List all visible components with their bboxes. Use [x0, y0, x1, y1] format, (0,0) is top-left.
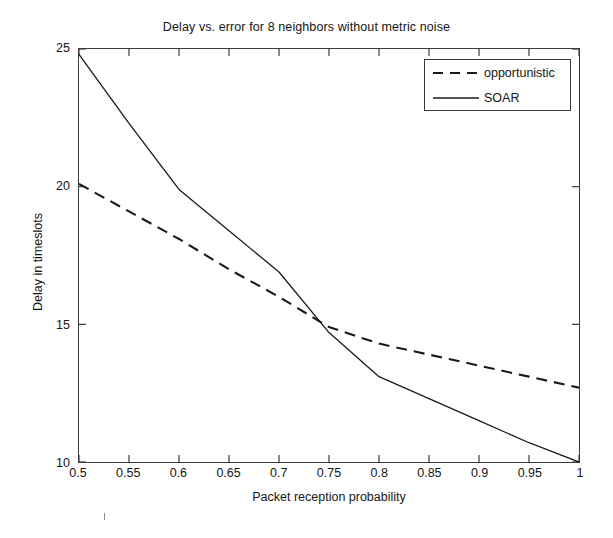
- x-tick-label: 0.75: [317, 466, 341, 480]
- series-line-opportunistic: [79, 184, 579, 388]
- legend-swatch-solid: [432, 91, 480, 105]
- x-tick-label: 0.65: [216, 466, 240, 480]
- legend-swatch-dashed: [432, 66, 480, 80]
- x-axis-title: Packet reception probability: [78, 490, 580, 504]
- x-tick-label: 0.6: [170, 466, 187, 480]
- x-tick-label: 0.55: [116, 466, 140, 480]
- x-tick-label: 0.9: [471, 466, 488, 480]
- x-tick-label: 0.5: [69, 466, 86, 480]
- y-tick-label: 10: [0, 456, 70, 470]
- x-tick-label: 0.85: [417, 466, 441, 480]
- plot-area: opportunistic SOAR: [78, 48, 580, 463]
- legend-label-soar: SOAR: [484, 91, 519, 105]
- x-tick-label: 0.8: [370, 466, 387, 480]
- legend: opportunistic SOAR: [424, 59, 571, 111]
- scan-artifact-mark: [104, 513, 105, 520]
- x-tick-label: 0.7: [270, 466, 287, 480]
- x-tick-label: 1: [577, 466, 584, 480]
- figure-canvas: Delay vs. error for 8 neighbors without …: [0, 0, 613, 538]
- y-axis-title: Delay in timeslots: [31, 162, 45, 362]
- legend-item-opportunistic: opportunistic: [425, 60, 570, 86]
- legend-label-opportunistic: opportunistic: [484, 66, 555, 80]
- x-tick-label: 0.95: [518, 466, 542, 480]
- chart-title: Delay vs. error for 8 neighbors without …: [0, 20, 613, 34]
- y-tick-label: 25: [0, 41, 70, 55]
- legend-item-soar: SOAR: [425, 85, 570, 111]
- series-line-soar: [79, 55, 579, 462]
